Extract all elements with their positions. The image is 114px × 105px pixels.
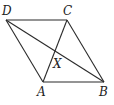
label-a: A xyxy=(36,85,46,99)
label-b: B xyxy=(98,85,108,99)
side-ad xyxy=(6,20,43,82)
label-x: X xyxy=(52,57,62,71)
side-cb xyxy=(67,20,104,82)
label-d: D xyxy=(1,4,12,18)
diagonal-ac xyxy=(43,20,67,82)
parallelogram-figure: D C A B X xyxy=(0,0,114,105)
label-c: C xyxy=(63,4,72,18)
